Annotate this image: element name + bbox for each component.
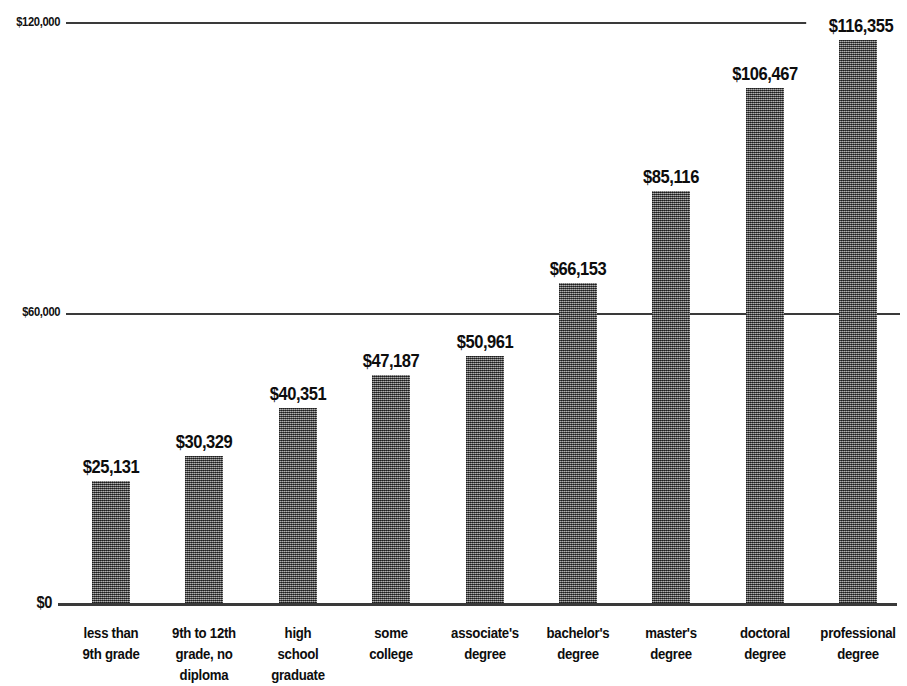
bar[interactable] (372, 375, 410, 603)
x-axis-category-label-line: doctoral (719, 622, 811, 643)
bar-value-label: $47,187 (339, 351, 443, 371)
x-axis-category-label-line: college (345, 643, 437, 664)
x-axis-category-label: doctoraldegree (719, 622, 811, 664)
x-axis-category-label-line: degree (719, 643, 811, 664)
bar-value-label: $85,116 (619, 167, 723, 187)
bar[interactable] (559, 283, 597, 603)
x-axis-category-label: master'sdegree (626, 622, 718, 664)
x-axis-category-label: associate'sdegree (439, 622, 531, 664)
bar[interactable] (466, 356, 504, 603)
bar[interactable] (92, 481, 130, 603)
bar-value-label: $25,131 (59, 457, 163, 477)
bar-value-label: $50,961 (432, 332, 536, 352)
bar-value-label: $116,355 (806, 16, 907, 36)
bar-chart: $0$60,000$120,000 $25,131$30,329$40,351$… (0, 0, 907, 686)
x-axis-category-label-line: master's (626, 622, 718, 643)
x-axis-category-label-line: associate's (439, 622, 531, 643)
x-axis-category-label-line: professional (812, 622, 904, 643)
gridline-120000 (66, 22, 900, 24)
bar-value-label: $40,351 (246, 384, 350, 404)
bar[interactable] (279, 408, 317, 603)
x-axis-category-label-line: less than (65, 622, 157, 643)
x-axis-category-label: 9th to 12thgrade, nodiploma (159, 622, 251, 685)
bar-value-label: $66,153 (526, 259, 630, 279)
bar[interactable] (652, 191, 690, 603)
x-axis-category-label-line: degree (812, 643, 904, 664)
x-axis-category-label-line: degree (439, 643, 531, 664)
x-axis-category-label: professionaldegree (812, 622, 904, 664)
y-axis-tick-label: $120,000 (16, 15, 60, 28)
x-axis-category-label: less than9th grade (65, 622, 157, 664)
y-axis-tick-label: $60,000 (22, 305, 60, 318)
x-axis-category-label-line: graduate (252, 664, 344, 685)
x-axis-category-label-line: some (345, 622, 437, 643)
x-axis-category-label-line: 9th to 12th (159, 622, 251, 643)
x-axis-category-label: somecollege (345, 622, 437, 664)
x-axis-category-label-line: grade, no (159, 643, 251, 664)
x-axis-category-label-line: diploma (159, 664, 251, 685)
x-axis-category-label-line: school (252, 643, 344, 664)
x-axis-category-label-line: degree (532, 643, 624, 664)
x-axis-category-label: highschoolgraduate (252, 622, 344, 685)
bar[interactable] (746, 88, 784, 603)
x-axis-category-label-line: 9th grade (65, 643, 157, 664)
bar[interactable] (185, 456, 223, 603)
x-axis-baseline (58, 603, 897, 606)
y-axis-tick-label: $0 (36, 594, 52, 611)
x-axis-category-label-line: high (252, 622, 344, 643)
bar-value-label: $30,329 (152, 432, 256, 452)
bar[interactable] (839, 40, 877, 603)
x-axis-category-label: bachelor'sdegree (532, 622, 624, 664)
x-axis-category-label-line: bachelor's (532, 622, 624, 643)
x-axis-category-label-line: degree (626, 643, 718, 664)
bar-value-label: $106,467 (713, 64, 817, 84)
